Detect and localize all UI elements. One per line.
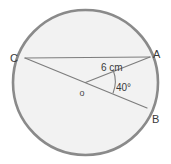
central-angle-label: 40° xyxy=(116,82,131,93)
radius-length-label: 6 cm xyxy=(101,62,123,73)
geometry-svg: C A B o 6 cm 40° xyxy=(0,0,171,164)
point-a-label: A xyxy=(153,48,161,60)
point-c-label: C xyxy=(10,52,18,64)
center-point-label: o xyxy=(79,88,84,98)
circle-diagram-canvas: C A B o 6 cm 40° xyxy=(0,0,171,164)
point-b-label: B xyxy=(152,113,159,125)
